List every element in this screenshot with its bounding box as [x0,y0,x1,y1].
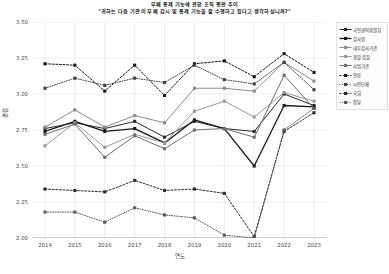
data-point [103,130,106,133]
data-point [283,61,286,64]
legend-marker-icon [339,90,352,97]
x-tick-label: 2021 [239,242,269,248]
data-point [43,130,46,133]
series-4 [43,74,315,159]
data-point [283,104,286,107]
y-tick-label: 2.25 [4,199,28,205]
x-tick-label: 2015 [60,242,90,248]
data-point [163,189,166,192]
data-point [253,164,256,167]
legend-item-label: 언론 [352,72,361,78]
page-subtitle: "귀하는 다음 기관이 부패 감시 및 통제 기능을 잘 수행하고 있다고 생각… [0,8,389,15]
legend-item-8[interactable]: 정당 [338,98,386,107]
data-point [193,118,196,121]
legend-marker-icon [339,26,352,33]
data-point [223,87,226,90]
x-tick-label: 2018 [150,242,180,248]
data-point [163,94,166,97]
legend-item-label: 감사원 [352,36,365,42]
data-point [73,123,76,126]
series-3 [43,91,315,149]
data-point [193,187,196,190]
y-tick-label: 2.50 [4,163,28,169]
data-point [253,130,256,133]
data-point [312,107,315,110]
data-point [312,71,315,74]
legend-item-5[interactable]: 언론 [338,70,386,79]
data-point [253,75,256,78]
x-tick-label: 2022 [269,242,299,248]
data-point [73,108,76,111]
data-point [223,100,226,103]
data-point [43,211,46,214]
legend-marker-icon [339,81,352,88]
legend-marker-icon [339,62,352,69]
data-point [253,115,256,118]
legend-marker-icon [339,44,352,51]
data-point [163,136,166,139]
data-point [223,234,226,237]
page-title: 부패 통제 기능에 관한 조직 평판 추이 [0,1,389,8]
series-5 [43,52,315,97]
data-point [43,133,46,136]
y-tick-label: 3.50 [4,19,28,25]
data-point [253,236,256,238]
data-point [193,110,196,113]
data-point [73,189,76,192]
x-tick-label: 2019 [179,242,209,248]
data-point [133,206,136,209]
x-tick-label: 2014 [30,242,60,248]
data-point [73,211,76,214]
legend-item-2[interactable]: 내부감사기관 [338,43,386,52]
y-tick-label: 3.00 [4,91,28,97]
data-point [253,90,256,93]
chart-page: 부패 통제 기능에 관한 조직 평판 추이 "귀하는 다음 기관이 부패 감시 … [0,0,389,274]
data-point [133,114,136,117]
data-point [43,187,46,190]
data-point [43,87,46,90]
data-point [43,144,46,147]
y-tick-label: 2.75 [4,127,28,133]
y-axis-title: 평점 [1,108,9,118]
legend-item-3[interactable]: 경찰·검찰 [338,52,386,61]
chart-legend: 국민권익위원회감사원내부감사기관경찰·검찰사법기관언론시민단체국회정당 [336,22,388,110]
x-axis-title: 연도 [0,252,360,260]
legend-item-4[interactable]: 사법기관 [338,61,386,70]
data-point [253,136,256,139]
legend-item-7[interactable]: 국회 [338,89,386,98]
data-point [103,146,106,149]
data-point [253,82,256,85]
data-point [103,84,106,87]
legend-item-6[interactable]: 시민단체 [338,80,386,89]
data-point [223,59,226,62]
legend-item-0[interactable]: 국민권익위원회 [338,25,386,34]
data-point [312,88,315,91]
chart-title-block: 부패 통제 기능에 관한 조직 평판 추이 "귀하는 다음 기관이 부패 감시 … [0,1,389,15]
data-point [163,121,166,124]
series-1 [43,104,315,168]
data-point [283,128,286,131]
data-point [283,91,286,94]
legend-item-label: 시민단체 [352,81,369,87]
y-tick-label: 2.00 [4,235,28,241]
data-point [163,81,166,84]
data-point [133,179,136,182]
data-point [283,52,286,55]
data-point [103,156,106,159]
legend-marker-icon [339,72,352,79]
legend-item-label: 국회 [352,90,361,96]
data-point [133,134,136,137]
legend-item-label: 국민권익위원회 [352,27,381,33]
data-point [193,216,196,219]
legend-item-label: 정당 [352,99,361,105]
legend-item-1[interactable]: 감사원 [338,34,386,43]
data-point [73,64,76,67]
x-tick-label: 2020 [209,242,239,248]
data-point [312,79,315,82]
data-point [163,213,166,216]
data-point [133,77,136,80]
data-point [193,128,196,131]
data-point [103,221,106,224]
data-point [312,100,315,103]
legend-item-label: 내부감사기관 [352,45,377,51]
